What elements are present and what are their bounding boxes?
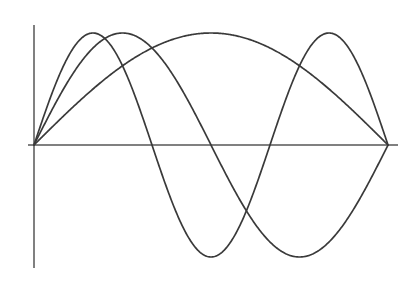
- sine-harmonics-figure: [0, 0, 419, 282]
- plot-canvas: [0, 0, 419, 282]
